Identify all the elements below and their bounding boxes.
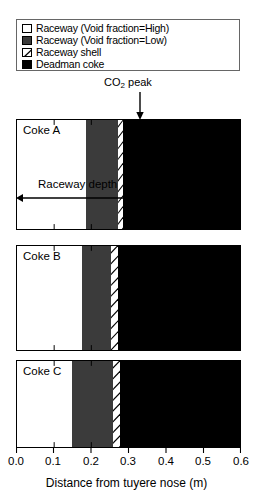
panel-label-coke-c: Coke C (23, 365, 61, 377)
zone-low-void-fraction (82, 246, 112, 350)
co2-peak-text: CO (104, 76, 121, 88)
x-tick-label: 0.4 (151, 455, 181, 467)
x-tick-label: 0.3 (113, 455, 143, 467)
raceway-depth-arrow-icon (16, 192, 192, 204)
legend-item-label: Raceway (Void fraction=High) (36, 23, 169, 34)
panel-label-coke-a: Coke A (23, 124, 60, 136)
zone-deadman-coke (120, 361, 240, 447)
co2-peak-arrow-icon (133, 92, 147, 120)
zone-raceway-shell (113, 361, 120, 447)
zone-low-void-fraction (86, 120, 118, 229)
x-tick-label: 0.6 (226, 455, 253, 467)
legend: Raceway (Void fraction=High) Raceway (Vo… (16, 19, 240, 71)
zone-deadman-coke (123, 120, 240, 229)
legend-item-label: Raceway (Void fraction=Low) (36, 35, 167, 46)
co2-peak-suffix: peak (125, 76, 152, 88)
x-tick-label: 0.5 (188, 455, 218, 467)
legend-item: Raceway shell (22, 46, 239, 58)
black-square-icon (22, 60, 32, 69)
hatched-square-icon (22, 48, 32, 57)
legend-item: Deadman coke (22, 58, 239, 70)
x-axis-tick-labels: 0.0 0.1 0.2 0.3 0.4 0.5 0.6 (0, 455, 253, 471)
x-tick-label: 0.0 (1, 455, 31, 467)
zone-low-void-fraction (72, 361, 114, 447)
x-tick-label: 0.2 (76, 455, 106, 467)
x-tick-label: 0.1 (38, 455, 68, 467)
white-square-icon (22, 24, 32, 33)
raceway-depth-label: Raceway depth (38, 178, 117, 190)
panel-coke-b: Coke B (16, 245, 241, 351)
co2-peak-annotation: CO2 peak (104, 76, 152, 90)
panel-label-coke-b: Coke B (23, 250, 61, 262)
dark-gray-square-icon (22, 36, 32, 45)
zone-deadman-coke (118, 246, 240, 350)
raceway-structure-figure: Raceway (Void fraction=High) Raceway (Vo… (0, 0, 253, 504)
legend-item-label: Raceway shell (36, 47, 101, 58)
panel-coke-c: Coke C (16, 360, 241, 448)
x-axis-title: Distance from tuyere nose (m) (0, 476, 253, 490)
panel-coke-a: Coke A (16, 119, 241, 230)
legend-item: Raceway (Void fraction=Low) (22, 34, 239, 46)
legend-item-label: Deadman coke (36, 59, 104, 70)
legend-item: Raceway (Void fraction=High) (22, 22, 239, 34)
